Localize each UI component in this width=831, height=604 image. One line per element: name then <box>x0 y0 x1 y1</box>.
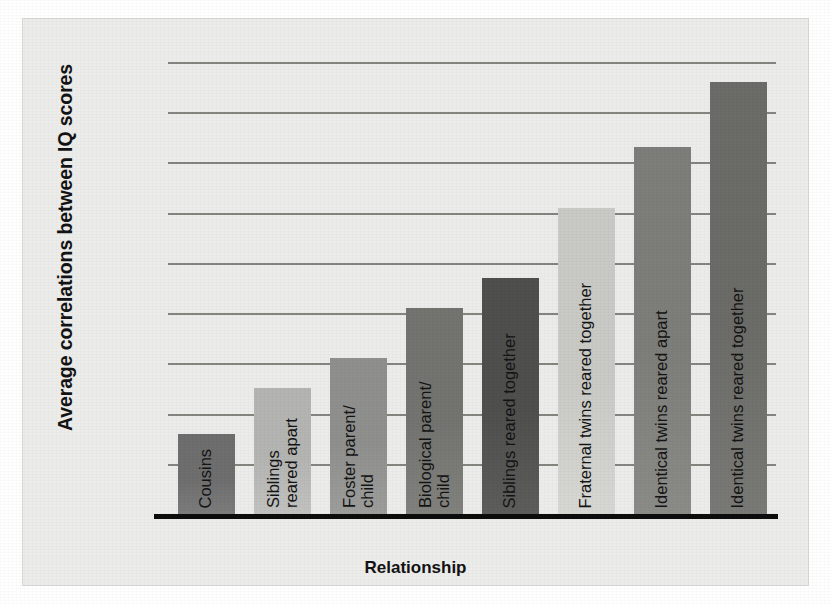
bar-category-label: Fraternal twins reared together <box>577 282 595 508</box>
bar-category-label: Identical twins reared apart <box>653 310 671 508</box>
x-axis-title: Relationship <box>0 558 831 578</box>
bar[interactable]: Foster parent/ child <box>330 358 387 514</box>
bar-series: CousinsSiblings reared apartFoster paren… <box>168 62 776 514</box>
bar[interactable]: Siblings reared apart <box>254 388 311 514</box>
plot-area: .00.10.20.30.40.50.60.70.80.90 CousinsSi… <box>168 62 776 516</box>
bar[interactable]: Biological parent/ child <box>406 308 463 514</box>
y-axis-title: Average correlations between IQ scores <box>54 33 77 463</box>
bar-category-label: Siblings reared together <box>501 333 519 508</box>
bar-category-label: Biological parent/ child <box>417 381 452 508</box>
bar[interactable]: Identical twins reared apart <box>634 147 691 514</box>
bar[interactable]: Cousins <box>178 434 235 514</box>
bar-category-label: Identical twins reared together <box>729 287 747 508</box>
chart-figure: Average correlations between IQ scores .… <box>0 0 831 604</box>
bar[interactable]: Siblings reared together <box>482 278 539 514</box>
bar-category-label: Siblings reared apart <box>265 418 300 508</box>
x-axis-line <box>154 514 778 519</box>
bar-category-label: Foster parent/ child <box>341 405 376 508</box>
bar[interactable]: Identical twins reared together <box>710 82 767 514</box>
bar-category-label: Cousins <box>197 448 215 508</box>
bar[interactable]: Fraternal twins reared together <box>558 208 615 514</box>
